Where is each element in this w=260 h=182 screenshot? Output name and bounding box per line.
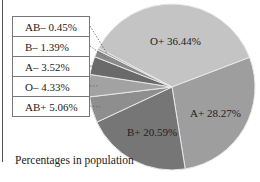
label-b-pos: B+ 20.59% — [127, 126, 177, 138]
legend-o-neg: O– 4.33% — [13, 77, 89, 97]
chart-caption: Percentages in population — [15, 154, 134, 166]
legend-ab-neg: AB– 0.45% — [13, 17, 89, 37]
legend-ab-pos: AB+ 5.06% — [13, 97, 89, 117]
label-o-pos: O+ 36.44% — [150, 35, 201, 47]
callout-legend: AB– 0.45% B– 1.39% A– 3.52% O– 4.33% AB+… — [12, 16, 90, 117]
legend-b-neg: B– 1.39% — [13, 37, 89, 57]
label-a-pos: A+ 28.27% — [190, 107, 241, 119]
legend-a-neg: A– 3.52% — [13, 57, 89, 77]
